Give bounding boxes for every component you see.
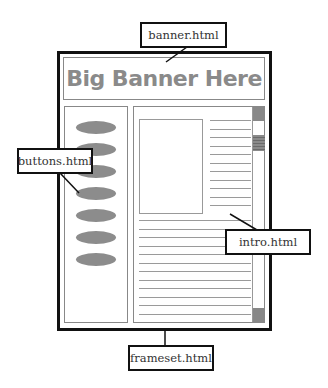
label-frameset: frameset.html <box>128 345 214 371</box>
label-buttons-text: buttons.html <box>18 154 93 168</box>
label-intro-text: intro.html <box>239 235 297 249</box>
label-banner: banner.html <box>140 22 227 48</box>
label-banner-text: banner.html <box>148 28 218 42</box>
label-frameset-text: frameset.html <box>130 351 212 365</box>
label-buttons: buttons.html <box>17 148 93 174</box>
leader-lines <box>0 0 328 388</box>
label-intro: intro.html <box>225 229 311 255</box>
